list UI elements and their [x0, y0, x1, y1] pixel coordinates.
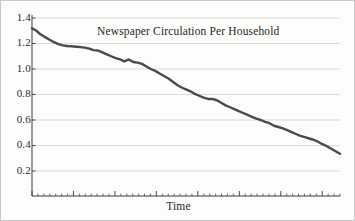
- axis-ticks: [32, 18, 340, 196]
- data-series-line: [32, 28, 340, 154]
- plot-canvas: [1, 1, 355, 221]
- chart-figure: 1.4 1.2 1.0 0.8 0.6 0.4 0.2 Newspaper Ci…: [0, 0, 355, 221]
- gridlines: [32, 18, 340, 171]
